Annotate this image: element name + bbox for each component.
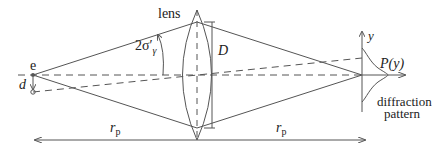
angle-label: 2σ′γ: [135, 38, 158, 56]
lens-label: lens: [158, 6, 181, 21]
y-axis-label: y: [366, 28, 374, 43]
pattern-label-line2: pattern: [384, 106, 421, 121]
intensity-label: P(y): [379, 56, 404, 72]
ray-upper-left: [33, 22, 197, 75]
optics-diagram: D 2σ′γ lens e d y P(y) diffraction patte…: [0, 0, 437, 152]
aperture-label: D: [217, 43, 228, 58]
angle-arc: [158, 35, 163, 75]
distance-label-right: rp: [276, 120, 286, 137]
displacement-label: d: [19, 77, 27, 92]
distance-label-left: rp: [110, 120, 120, 137]
source-label: e: [30, 58, 36, 73]
source-point: [31, 73, 35, 77]
